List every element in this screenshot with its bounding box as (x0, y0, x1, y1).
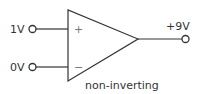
plus-sign: + (74, 23, 83, 36)
input-plus-label: 1V (10, 23, 25, 36)
minus-sign: − (74, 61, 83, 74)
output-label: +9V (166, 20, 190, 33)
input-minus-terminal (29, 64, 36, 71)
caption: non-inverting (85, 79, 159, 92)
input-plus-terminal (29, 26, 36, 33)
input-minus-label: 0V (10, 61, 25, 74)
output-terminal (182, 36, 189, 43)
opamp-diagram: 1V + 0V − +9V non-inverting (0, 0, 201, 94)
